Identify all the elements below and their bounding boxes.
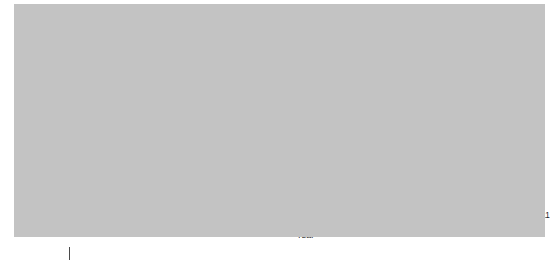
caption-tick-mark <box>69 247 70 260</box>
chart-figure: 010203040 198019821984198619881990199219… <box>0 0 559 265</box>
chart-panel-background <box>14 4 545 237</box>
